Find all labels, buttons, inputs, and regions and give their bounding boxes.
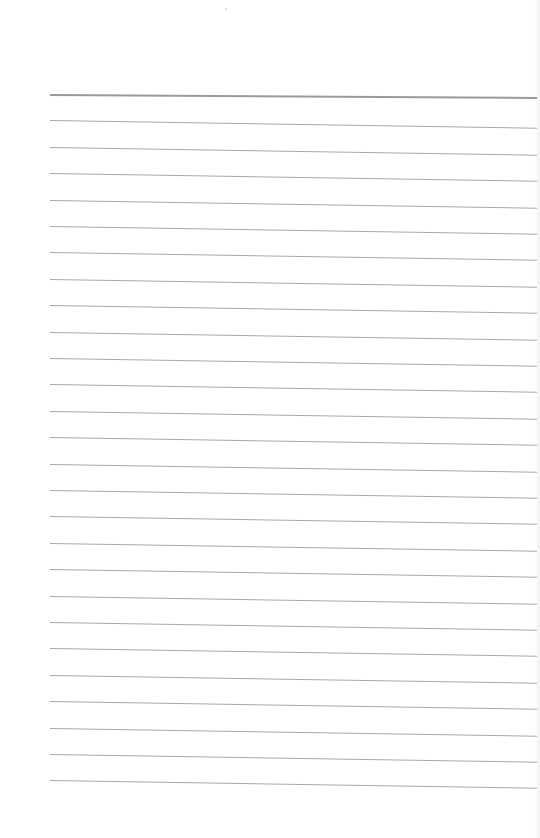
ruled-line — [50, 226, 537, 235]
ruled-line — [50, 411, 537, 420]
ruled-line — [50, 252, 537, 261]
ruled-line — [50, 596, 537, 605]
ruled-line — [50, 490, 537, 499]
ruled-line — [50, 516, 537, 525]
ruled-line — [50, 701, 537, 710]
ruled-line — [50, 728, 537, 737]
paper-speck — [225, 8, 227, 10]
ruled-line — [50, 754, 537, 763]
ruled-line — [50, 279, 537, 288]
ruled-line — [50, 437, 537, 446]
ruled-line — [50, 464, 537, 473]
ruled-line — [50, 648, 537, 657]
ruled-line — [50, 358, 537, 367]
ruled-line — [50, 622, 537, 631]
lined-paper-page — [0, 0, 540, 838]
ruled-line — [50, 332, 537, 341]
ruled-line — [50, 200, 537, 209]
ruled-line — [50, 780, 537, 789]
ruled-line — [50, 675, 537, 684]
ruled-line — [50, 569, 537, 578]
ruled-line — [50, 173, 537, 182]
ruled-line — [50, 543, 537, 552]
ruled-line — [50, 120, 537, 129]
ruled-line — [50, 147, 537, 156]
ruled-line — [50, 384, 537, 393]
ruled-line — [50, 305, 537, 314]
header-rule-line — [50, 94, 537, 99]
